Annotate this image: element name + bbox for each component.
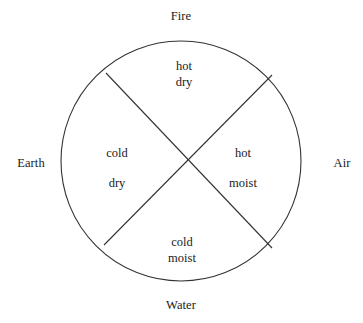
four-elements-diagram: Fire Air Water Earth hot dry hot moist c… bbox=[0, 0, 363, 323]
quality-fire-first: hot bbox=[176, 58, 193, 74]
quality-pair-water: cold moist bbox=[168, 234, 196, 266]
element-label-water: Water bbox=[166, 298, 196, 312]
quality-pair-fire: hot dry bbox=[176, 58, 193, 90]
quality-earth-second: dry bbox=[106, 176, 128, 190]
wheel-figure bbox=[0, 0, 363, 323]
quality-fire-second: dry bbox=[176, 74, 193, 90]
quality-pair-air: hot moist bbox=[229, 146, 257, 191]
quality-water-second: moist bbox=[168, 250, 196, 266]
quality-pair-earth: cold dry bbox=[106, 146, 128, 191]
quality-water-first: cold bbox=[168, 234, 196, 250]
element-label-fire: Fire bbox=[171, 9, 192, 23]
element-label-air: Air bbox=[334, 156, 351, 170]
quality-air-second: moist bbox=[229, 176, 257, 190]
quality-earth-first: cold bbox=[106, 146, 128, 160]
quality-air-first: hot bbox=[229, 146, 257, 160]
element-label-earth: Earth bbox=[17, 156, 45, 170]
